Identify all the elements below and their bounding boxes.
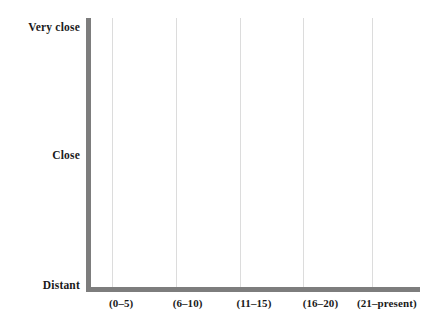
gridline-vertical-2 xyxy=(176,18,177,287)
x-axis-tick-label-0-5: (0–5) xyxy=(88,296,154,316)
x-axis-tick-label-11-15: (11–15) xyxy=(221,296,287,316)
y-axis-line xyxy=(86,18,91,292)
plot-area xyxy=(88,18,420,287)
x-axis-tick-label-21-present: (21–present) xyxy=(354,296,420,316)
gridline-vertical-3 xyxy=(240,18,241,287)
y-axis-tick-label-distant: Distant xyxy=(2,279,80,291)
gridline-vertical-4 xyxy=(303,18,304,287)
gridline-vertical-1 xyxy=(112,18,113,287)
gridline-vertical-5 xyxy=(372,18,373,287)
x-axis-line xyxy=(86,287,420,292)
x-axis-tick-label-6-10: (6–10) xyxy=(154,296,220,316)
y-axis-tick-label-close: Close xyxy=(2,149,80,161)
y-axis-tick-label-very-close: Very close xyxy=(2,21,80,33)
x-axis-tick-labels: (0–5) (6–10) (11–15) (16–20) (21–present… xyxy=(88,296,420,316)
y-axis-tick-labels: Very close Close Distant xyxy=(0,0,80,323)
chart-container: Very close Close Distant (0–5) (6–10) (1… xyxy=(0,0,442,323)
x-axis-tick-label-16-20: (16–20) xyxy=(287,296,353,316)
